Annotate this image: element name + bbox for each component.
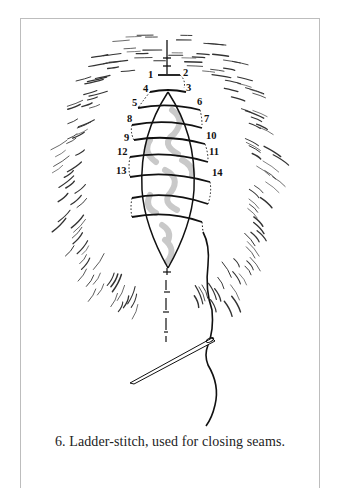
stitch-number-10: 10 [206, 130, 217, 141]
fur-hair-stroke [84, 91, 97, 95]
stitch-number-14: 14 [212, 167, 223, 178]
fur-hair-stroke [93, 273, 100, 284]
fur-hair-stroke [224, 88, 238, 91]
stitch-number-9: 9 [124, 132, 129, 143]
fur-hair-stroke [197, 54, 209, 55]
fur-hair-stroke [113, 40, 130, 41]
fur-hair-stroke [245, 266, 251, 275]
fur-hair-stroke [128, 287, 135, 304]
fur-hair-stroke [118, 302, 123, 312]
fur-hair-stroke [117, 285, 124, 300]
fur-hair-stroke [238, 83, 251, 87]
fur-hair-stroke [252, 154, 261, 160]
stitch-number-3: 3 [186, 82, 191, 93]
fur-hair-stroke [194, 296, 198, 308]
fur-hair-stroke [218, 277, 224, 288]
stitch-number-2: 2 [183, 67, 188, 78]
fur-hair-stroke [68, 104, 80, 109]
fur-hair-stroke [52, 218, 66, 232]
fur-hair-stroke [75, 185, 85, 194]
fur-hair-stroke [67, 100, 82, 106]
fur-hair-stroke [59, 176, 74, 188]
stitch-number-7: 7 [204, 113, 209, 124]
fur-hair-stroke [77, 241, 88, 254]
fur-hair-stroke [213, 54, 229, 56]
fur-hair-stroke [88, 97, 98, 100]
fur-hair-stroke [76, 77, 91, 81]
fur-hair-stroke [124, 48, 136, 49]
fur-hair-stroke [126, 36, 141, 37]
fur-hair-stroke [93, 254, 104, 270]
fur-hair-stroke [254, 217, 263, 227]
stitch-number-12: 12 [117, 146, 128, 157]
fur-hair-stroke [273, 177, 286, 187]
fur-hair-stroke [68, 119, 78, 124]
fur-hair-stroke [185, 62, 202, 63]
fur-hair-stroke [266, 182, 279, 193]
fur-hair-stroke [263, 161, 279, 172]
stitch-number-1: 1 [148, 69, 153, 80]
figure-caption: 6. Ladder-stitch, used for closing seams… [20, 434, 320, 450]
fur-hair-stroke [250, 257, 260, 271]
needle [130, 337, 215, 384]
fur-hair-stroke [251, 117, 262, 122]
fur-hair-stroke [232, 97, 245, 101]
fur-hair-stroke [86, 275, 93, 286]
fur-hair-stroke [222, 262, 231, 277]
fur-hair-stroke [67, 162, 81, 172]
fur-hair-stroke [212, 75, 231, 78]
fur-hair-stroke [73, 132, 85, 138]
fur-hair-stroke [245, 111, 263, 119]
fur-hair-stroke [132, 305, 138, 320]
fur-hair-stroke [97, 284, 103, 295]
fur-hair-stroke [238, 77, 253, 81]
fur-hair-stroke [192, 57, 204, 58]
fur-hair-stroke [78, 269, 86, 281]
fur-hair-stroke [246, 142, 260, 150]
fur-hair-stroke [80, 255, 87, 264]
stitch-number-13: 13 [116, 165, 127, 176]
stitch-number-8: 8 [127, 113, 132, 124]
fur-hair-stroke [249, 189, 259, 197]
fur-hair-stroke [203, 71, 215, 72]
fur-hair-stroke [224, 68, 235, 70]
fur-pelt [51, 35, 289, 319]
fur-hair-stroke [234, 259, 240, 267]
fur-hair-stroke [78, 120, 94, 127]
top-stitches [163, 40, 171, 74]
fur-hair-stroke [111, 293, 118, 306]
fur-hair-stroke [231, 285, 240, 300]
fur-hair-stroke [82, 103, 92, 107]
fur-hair-stroke [66, 246, 75, 256]
stitch-number-4: 4 [143, 83, 149, 94]
fur-hair-stroke [90, 105, 100, 109]
fur-hair-stroke [82, 258, 90, 269]
fur-hair-stroke [77, 199, 87, 208]
stitch-number-6: 6 [197, 96, 202, 107]
fur-hair-stroke [261, 198, 272, 208]
fur-hair-stroke [73, 233, 82, 244]
fur-hair-stroke [88, 289, 96, 301]
fur-hair-stroke [124, 296, 129, 308]
fur-hair-stroke [257, 166, 270, 175]
fur-hair-stroke [249, 123, 260, 128]
fur-hair-stroke [51, 140, 67, 149]
fur-hair-stroke [195, 286, 203, 304]
fur-hair-stroke [209, 283, 217, 299]
fur-hair-stroke [108, 67, 119, 69]
fur-hair-stroke [58, 193, 68, 201]
fur-hair-stroke [232, 61, 248, 64]
fur-hair-stroke [71, 195, 81, 204]
fur-hair-stroke [224, 301, 232, 316]
fur-hair-stroke [211, 69, 224, 71]
fur-hair-stroke [187, 66, 202, 67]
thread [203, 232, 216, 426]
stitch-number-5: 5 [132, 97, 137, 108]
bottom-stitches [163, 268, 171, 342]
fur-hair-stroke [250, 90, 264, 95]
fur-hair-stroke [54, 156, 70, 166]
fur-hair-stroke [71, 215, 83, 228]
fur-hair-stroke [76, 150, 85, 155]
fur-hair-stroke [56, 150, 66, 156]
